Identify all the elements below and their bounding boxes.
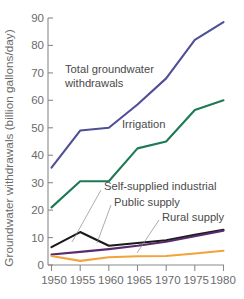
- annotation-self-supplied-industrial: Self-supplied industrial: [104, 180, 217, 192]
- y-tick-label-0: 0: [38, 259, 44, 271]
- x-tick-label-1975: 1975: [183, 274, 209, 286]
- series-group: [52, 22, 224, 261]
- x-tick-label-1965: 1965: [126, 274, 152, 286]
- y-tick-label-10: 10: [31, 232, 44, 244]
- annotation-irrigation: Irrigation: [122, 118, 166, 130]
- x-tick-label-1980: 1980: [210, 274, 236, 286]
- annotation-total-groundwater-line2: withdrawals: [64, 77, 124, 89]
- annotation-total-groundwater-line1: Total groundwater: [65, 63, 154, 75]
- x-axis-ticks: 1950 1955 1960 1965 1970 1975 1980: [41, 265, 236, 286]
- x-tick-label-1955: 1955: [70, 274, 96, 286]
- y-axis-ticks: 90 80 70 60 50 40 30 20 10 0: [31, 12, 53, 271]
- series-line-total-groundwater-withdrawals: [52, 22, 224, 167]
- chart-canvas: Groundwater withdrawals (billion gallons…: [0, 0, 244, 299]
- y-tick-label-30: 30: [31, 177, 44, 189]
- x-tick-label-1970: 1970: [155, 274, 181, 286]
- y-axis-title: Groundwater withdrawals (billion gallons…: [2, 29, 16, 266]
- annotation-public-supply: Public supply: [114, 196, 180, 208]
- y-tick-label-20: 20: [31, 204, 44, 216]
- y-tick-label-40: 40: [31, 149, 44, 161]
- x-tick-label-1960: 1960: [98, 274, 124, 286]
- y-tick-label-90: 90: [31, 12, 44, 24]
- y-tick-label-80: 80: [31, 39, 44, 51]
- y-tick-label-50: 50: [31, 122, 44, 134]
- y-tick-label-70: 70: [31, 67, 44, 79]
- x-tick-label-1950: 1950: [41, 274, 67, 286]
- leader-line-rural-supply: [137, 220, 159, 253]
- annotation-rural-supply: Rural supply: [162, 211, 225, 223]
- leader-line-public-supply: [97, 205, 111, 243]
- groundwater-withdrawals-chart: Groundwater withdrawals (billion gallons…: [0, 0, 244, 299]
- y-tick-label-60: 60: [31, 94, 44, 106]
